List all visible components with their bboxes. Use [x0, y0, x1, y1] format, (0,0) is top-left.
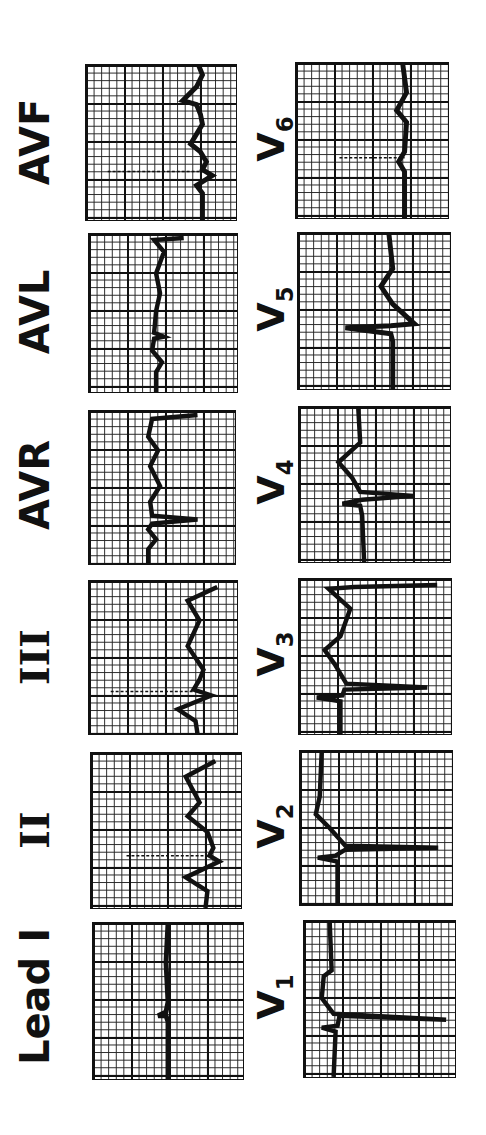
ecg-trace-v5 — [298, 233, 450, 389]
ecg-trace-v3 — [299, 579, 451, 734]
ecg-strip-v4 — [298, 406, 451, 563]
lead-label-avl: AVL — [10, 267, 60, 357]
lead-label-avf: AVF — [10, 97, 60, 187]
lead-label-v2: V2 — [249, 791, 293, 861]
lead-label-ii: II — [10, 785, 60, 875]
ecg-strip-avr — [88, 410, 236, 565]
lead-label-v4: V4 — [249, 447, 293, 517]
ecg-strip-v5 — [297, 232, 451, 390]
ecg-trace-v2 — [300, 751, 452, 905]
ecg-trace-ii — [91, 753, 241, 908]
ecg-trace-iii — [89, 581, 237, 734]
lead-label-v5: V5 — [249, 274, 293, 344]
lead-label-v6: V6 — [249, 104, 293, 174]
lead-label-v1: V1 — [249, 962, 293, 1032]
ecg-trace-avl — [89, 234, 237, 392]
ecg-strip-v2 — [299, 750, 453, 906]
ecg-trace-v6 — [296, 63, 448, 218]
ecg-strip-i — [92, 922, 244, 1080]
lead-label-iii: III — [10, 612, 60, 702]
ecg-trace-v1 — [304, 921, 455, 1077]
ecg-strip-avl — [88, 233, 238, 393]
ecg-strip-v1 — [303, 920, 456, 1078]
ecg-strip-v6 — [295, 62, 449, 219]
ecg-trace-v4 — [299, 407, 450, 562]
ecg-trace-i — [93, 923, 243, 1079]
lead-label-i: Lead I — [10, 935, 60, 1065]
ecg-strip-ii — [90, 752, 242, 909]
lead-label-avr: AVR — [10, 440, 60, 530]
ecg-trace-avf — [86, 65, 236, 220]
ecg-strip-v3 — [298, 578, 452, 735]
ecg-strip-avf — [85, 64, 237, 221]
ecg-trace-avr — [89, 411, 235, 564]
lead-label-v3: V3 — [249, 619, 293, 689]
ecg-strip-iii — [88, 580, 238, 735]
